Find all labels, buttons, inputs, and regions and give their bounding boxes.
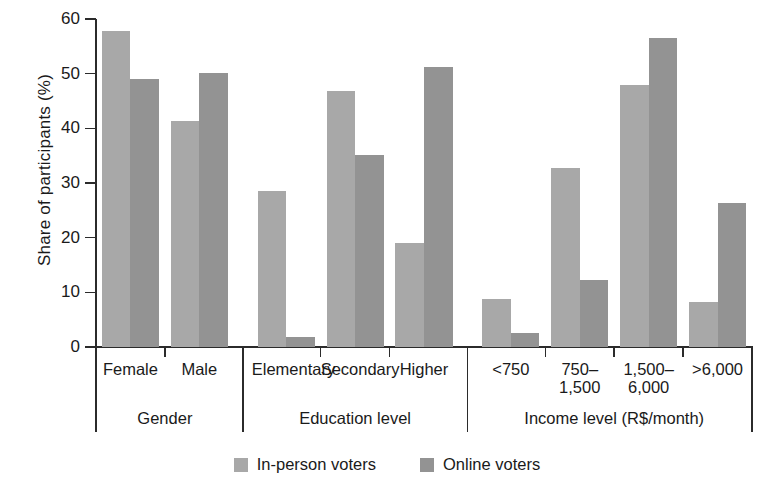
bar-online-5	[511, 333, 540, 347]
y-tick-30	[85, 182, 96, 184]
bar-online-3	[355, 155, 384, 347]
x-tick-1-2	[389, 347, 391, 357]
bar-inperson-7	[620, 85, 649, 347]
bar-online-1	[199, 73, 228, 347]
y-tick-label-30: 30	[28, 173, 80, 193]
bar-online-7	[649, 38, 678, 347]
bars-layer	[96, 19, 752, 347]
y-tick-50	[85, 73, 96, 75]
bar-inperson-8	[689, 302, 718, 347]
bar-inperson-3	[327, 91, 356, 347]
y-tick-label-10: 10	[28, 282, 80, 302]
group-label-0: Gender	[96, 409, 234, 428]
y-tick-label-60: 60	[28, 9, 80, 29]
y-tick-label-40: 40	[28, 118, 80, 138]
legend-item-1[interactable]: Online voters	[420, 455, 540, 474]
bar-inperson-1	[171, 121, 200, 347]
legend-swatch-0	[234, 458, 248, 472]
x-tick-2-1	[545, 347, 547, 357]
y-tick-label-50: 50	[28, 64, 80, 84]
separator-0	[242, 347, 244, 432]
bar-inperson-2	[258, 191, 287, 347]
category-label-7: 1,500– 6,000	[614, 360, 683, 397]
bar-online-0	[130, 79, 159, 347]
y-tick-label-0: 0	[28, 337, 80, 357]
category-label-1: Male	[165, 360, 234, 378]
category-label-4: Higher	[390, 360, 459, 378]
category-label-8: >6,000	[683, 360, 752, 378]
category-label-2: Elementary	[252, 360, 321, 378]
bar-online-8	[718, 203, 747, 347]
legend-item-0[interactable]: In-person voters	[234, 455, 376, 474]
y-tick-label-20: 20	[28, 228, 80, 248]
group-label-2: Income level (R$/month)	[476, 409, 752, 428]
category-label-3: Secondary	[321, 360, 390, 378]
legend-label-1: Online voters	[443, 455, 540, 474]
bar-inperson-6	[551, 168, 580, 347]
category-label-6: 750– 1,500	[545, 360, 614, 397]
category-label-0: Female	[96, 360, 165, 378]
x-tick-2-2	[613, 347, 615, 357]
legend-label-0: In-person voters	[257, 455, 376, 474]
y-tick-10	[85, 292, 96, 294]
legend-swatch-1	[420, 458, 434, 472]
bar-online-6	[580, 280, 609, 347]
x-tick-1-1	[320, 347, 322, 357]
bar-chart: Share of participants (%) 0102030405060 …	[0, 0, 774, 494]
bar-inperson-4	[395, 243, 424, 347]
bar-inperson-5	[482, 299, 511, 347]
y-tick-60	[85, 18, 96, 20]
bar-inperson-0	[102, 31, 131, 347]
y-tick-40	[85, 128, 96, 130]
category-label-5: <750	[476, 360, 545, 378]
y-tick-20	[85, 237, 96, 239]
group-label-1: Education level	[252, 409, 459, 428]
bar-online-2	[286, 337, 315, 347]
separator-1	[467, 347, 469, 432]
bar-online-4	[424, 67, 453, 347]
chart-legend: In-person votersOnline voters	[0, 455, 774, 474]
x-tick-2-3	[682, 347, 684, 357]
x-tick-0-1	[164, 347, 166, 357]
